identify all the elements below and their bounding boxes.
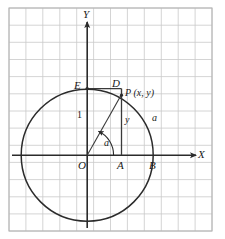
y-axis-label: Y bbox=[83, 9, 89, 20]
grid-lines bbox=[9, 8, 212, 231]
segment-label-unit-one: 1 bbox=[77, 110, 82, 120]
point-label-O: O bbox=[78, 160, 86, 171]
trigonometry-unit-circle-figure: X Y O E D P (x, y) A B 1 y a a bbox=[0, 0, 225, 239]
point-dot-E bbox=[86, 87, 89, 90]
figure-canvas bbox=[0, 0, 225, 239]
point-dot-P bbox=[120, 94, 123, 97]
x-axis-label: X bbox=[198, 149, 205, 160]
point-label-D: D bbox=[112, 78, 120, 89]
point-label-B: B bbox=[149, 160, 156, 171]
point-label-E: E bbox=[74, 80, 81, 91]
point-label-A: A bbox=[117, 160, 124, 171]
point-label-P: P (x, y) bbox=[125, 88, 154, 98]
angle-label-alpha: a bbox=[104, 138, 109, 148]
segment-label-radius-a: a bbox=[152, 113, 157, 123]
segment-label-ordinate-y: y bbox=[125, 115, 129, 125]
